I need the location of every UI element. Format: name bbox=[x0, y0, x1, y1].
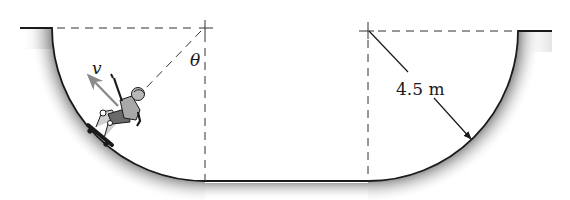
center-mark-left bbox=[199, 20, 213, 34]
radius-label: 4.5 m bbox=[396, 79, 445, 99]
angle-theta-label: θ bbox=[190, 50, 200, 70]
half-pipe-diagram: 4.5 m θ v bbox=[0, 0, 570, 200]
velocity-label: v bbox=[92, 58, 102, 78]
center-mark-right bbox=[359, 22, 374, 39]
velocity-arrow bbox=[89, 76, 118, 106]
